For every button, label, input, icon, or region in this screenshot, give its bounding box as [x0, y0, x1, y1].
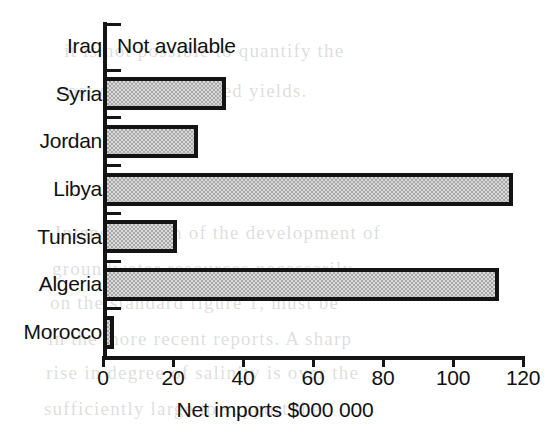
category-label-algeria: Algeria: [39, 272, 102, 296]
category-label-iraq: Iraq: [67, 34, 102, 58]
y-tick: [107, 23, 121, 26]
category-label-syria: Syria: [56, 82, 102, 106]
category-label-morocco: Morocco: [24, 320, 102, 344]
bar-morocco: [103, 316, 114, 349]
y-tick: [107, 307, 121, 310]
y-tick: [107, 69, 121, 72]
x-tick-label: 20: [162, 366, 185, 390]
bar-tunisia: [103, 220, 177, 253]
x-tick-label: 40: [232, 366, 255, 390]
bar-libya: [103, 173, 513, 206]
y-tick: [107, 164, 121, 167]
y-tick: [107, 116, 121, 119]
not-available-annotation: Not available: [117, 34, 236, 58]
x-axis-title: Net imports $000 000: [0, 398, 550, 422]
x-tick-label: 120: [506, 366, 540, 390]
bar-chart: 020406080100120 IraqSyriaJordanLibyaTuni…: [0, 0, 550, 442]
y-tick: [107, 212, 121, 215]
bar-algeria: [103, 268, 499, 301]
category-label-jordan: Jordan: [40, 129, 102, 153]
x-tick-label: 80: [372, 366, 395, 390]
y-tick: [107, 260, 121, 263]
bar-syria: [103, 77, 226, 110]
category-label-libya: Libya: [53, 177, 102, 201]
bar-jordan: [103, 125, 198, 158]
x-tick-label: 60: [302, 366, 325, 390]
x-tick-label: 0: [97, 366, 108, 390]
category-label-tunisia: Tunisia: [37, 225, 102, 249]
x-tick-label: 100: [436, 366, 470, 390]
